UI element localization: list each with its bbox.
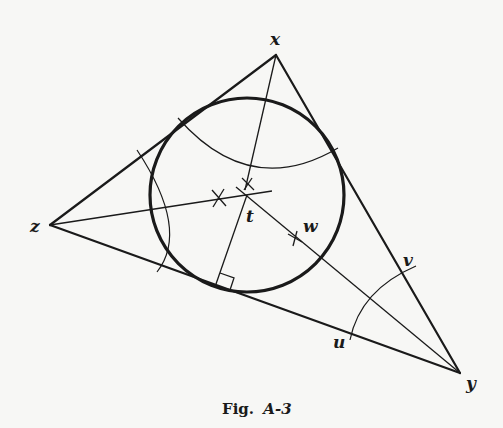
angle-bisectors [50,55,460,373]
caption-id: A-3 [261,400,291,418]
figure-caption: Fig. A-3 [222,400,292,418]
caption-prefix: Fig. [222,400,254,418]
perpendicular-to-zy [216,195,247,284]
label-u: u [333,332,345,352]
label-y: y [465,373,477,393]
incircle-construction-diagram: x z y t w u v Fig. A-3 [0,0,503,428]
figure-canvas: x z y t w u v Fig. A-3 [0,0,503,428]
label-x: x [269,29,281,49]
bisector-from-y [236,187,460,373]
side-zy [50,225,460,373]
triangle-xyz [50,55,460,373]
side-xy [276,55,460,373]
cross-mark-w [288,231,302,246]
label-w: w [303,216,319,236]
cross-marks [212,178,302,246]
label-v: v [403,250,414,270]
label-t: t [246,206,254,226]
label-z: z [29,216,40,236]
